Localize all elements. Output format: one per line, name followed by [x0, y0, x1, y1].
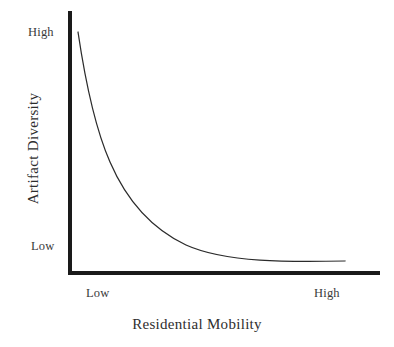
y-axis-title: Artifact Diversity — [25, 54, 42, 244]
x-tick-label-high: High — [314, 286, 340, 301]
y-tick-label-high: High — [28, 25, 54, 40]
chart-figure: High Low Low High Artifact Diversity Res… — [0, 0, 394, 347]
x-axis-title: Residential Mobility — [0, 316, 394, 333]
x-tick-label-low: Low — [86, 286, 110, 301]
decay-curve — [78, 32, 345, 261]
